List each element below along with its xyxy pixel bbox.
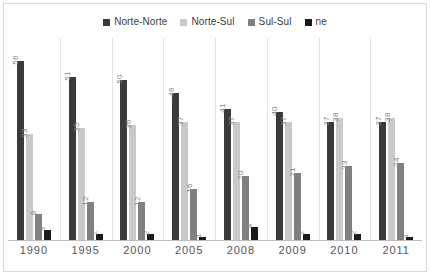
bar-value-label: 21 [289,167,297,176]
bar-column: 41 [224,109,231,240]
x-tick-2000: 2000 [112,243,164,257]
bar-sul-sul-2011[interactable]: 24 [397,36,404,240]
bar-rect [242,176,249,240]
bar-value-label: 12 [134,196,142,205]
legend-item-ne[interactable]: ne [305,17,327,27]
bar-norte-sul-2009[interactable]: 37 [285,36,292,240]
bar-sul-sul-1995[interactable]: 12 [87,36,94,240]
bar-group-2005: 4637161 [163,36,215,240]
bar-value-label: 40 [271,106,279,115]
bar-rect [224,109,231,240]
bar-value-label: 3 [39,227,47,232]
legend-item-sul-sul[interactable]: Sul-Sul [248,17,292,27]
x-tick-2009: 2009 [267,243,319,257]
bar-rect [336,118,343,240]
x-axis-tick-labels: 19901995200020052008200920102011 [8,243,422,263]
bar-value-label: 51 [64,71,72,80]
bar-ne-2011[interactable]: 1 [406,36,413,240]
bar-column: 4 [251,227,258,240]
bar-group-2011: 3738241 [370,36,422,240]
bar-norte-norte-1995[interactable]: 51 [69,36,76,240]
bar-ne-2009[interactable]: 2 [303,36,310,240]
bar-rect [129,125,136,240]
bar-value-label: 2 [298,230,306,235]
bar-rect [276,112,283,240]
bar-value-label: 38 [332,113,340,122]
bar-group-2000: 5036122 [112,36,164,240]
bar-norte-sul-2008[interactable]: 37 [233,36,240,240]
bar-rect [172,93,179,240]
bar-column: 23 [345,166,352,240]
bar-norte-norte-2008[interactable]: 41 [224,36,231,240]
bar-ne-1995[interactable]: 2 [96,36,103,240]
bar-column: 36 [129,125,136,240]
x-tick-2011: 2011 [370,243,422,257]
bar-rect [233,122,240,240]
bar-norte-norte-2000[interactable]: 50 [120,36,127,240]
bar-ne-1990[interactable]: 3 [44,36,51,240]
bar-column: 33 [26,134,33,240]
x-tick-2008: 2008 [215,243,267,257]
bar-value-label: 41 [219,103,227,112]
bar-column: 56 [17,61,24,240]
bar-sul-sul-2010[interactable]: 23 [345,36,352,240]
bar-value-label: 2 [143,230,151,235]
bar-ne-2008[interactable]: 4 [251,36,258,240]
bar-sul-sul-2009[interactable]: 21 [294,36,301,240]
bar-value-label: 37 [228,116,236,125]
bar-sul-sul-2008[interactable]: 20 [242,36,249,240]
bar-norte-sul-1995[interactable]: 35 [78,36,85,240]
bar-sul-sul-2000[interactable]: 12 [138,36,145,240]
bar-column: 3 [44,230,51,240]
bar-value-label: 2 [350,230,358,235]
bar-norte-norte-1990[interactable]: 56 [17,36,24,240]
bar-rect [69,77,76,240]
bar-group-2010: 3738232 [319,36,371,240]
bar-rect [190,189,197,240]
bar-rect [251,227,258,240]
bar-norte-sul-2010[interactable]: 38 [336,36,343,240]
x-tick-2005: 2005 [163,243,215,257]
bar-norte-sul-2005[interactable]: 37 [181,36,188,240]
bar-column: 38 [336,118,343,240]
bar-value-label: 1 [195,233,203,238]
bar-column: 50 [120,80,127,240]
bar-value-label: 2 [91,230,99,235]
bar-value-label: 23 [341,161,349,170]
bar-value-label: 33 [21,129,29,138]
bar-norte-sul-2011[interactable]: 38 [388,36,395,240]
bar-value-label: 38 [384,113,392,122]
bar-norte-norte-2005[interactable]: 46 [172,36,179,240]
legend-item-norte-sul[interactable]: Norte-Sul [180,17,234,27]
bar-sul-sul-2005[interactable]: 16 [190,36,197,240]
bar-norte-sul-2000[interactable]: 36 [129,36,136,240]
bar-ne-2000[interactable]: 2 [147,36,154,240]
bar-rect [379,122,386,240]
chart-legend: Norte-NorteNorte-SulSul-Sulne [0,14,430,30]
bar-norte-norte-2010[interactable]: 37 [327,36,334,240]
bar-value-label: 50 [116,74,124,83]
x-tick-1995: 1995 [60,243,112,257]
bar-value-label: 4 [246,224,254,229]
bar-ne-2005[interactable]: 1 [199,36,206,240]
bar-column: 37 [233,122,240,240]
bar-rect [345,166,352,240]
bar-value-label: 37 [375,116,383,125]
x-axis-line [8,240,422,241]
bar-column: 51 [69,77,76,240]
bar-value-label: 37 [323,116,331,125]
bar-group-1995: 5135122 [60,36,112,240]
bar-rect [78,128,85,240]
bar-column: 40 [276,112,283,240]
bar-value-label: 12 [82,196,90,205]
bar-ne-2010[interactable]: 2 [354,36,361,240]
legend-swatch-icon [103,19,110,26]
bar-norte-norte-2011[interactable]: 37 [379,36,386,240]
legend-item-norte-norte[interactable]: Norte-Norte [103,17,167,27]
bar-norte-norte-2009[interactable]: 40 [276,36,283,240]
bar-value-label: 37 [280,116,288,125]
bar-sul-sul-1990[interactable]: 8 [35,36,42,240]
legend-swatch-icon [180,19,187,26]
bar-value-label: 35 [73,122,81,131]
bar-column: 20 [242,176,249,240]
